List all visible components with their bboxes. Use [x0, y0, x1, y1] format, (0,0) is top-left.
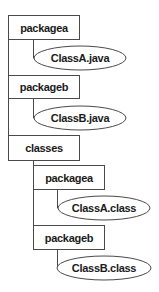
folder-node-classes[interactable]: classes: [9, 136, 80, 161]
file-node-classb-class[interactable]: ClassB.class: [57, 256, 151, 280]
folder-node-packagea[interactable]: packagea: [9, 16, 80, 40]
folder-node-classes-packagea[interactable]: packagea: [34, 166, 105, 190]
file-label: ClassB.class: [72, 262, 136, 274]
folder-label: packageb: [45, 232, 94, 244]
folder-label: classes: [25, 142, 63, 154]
folder-label: packagea: [45, 172, 94, 184]
folder-node-packageb[interactable]: packageb: [9, 76, 80, 99]
file-node-classa-java[interactable]: ClassA.java: [34, 46, 126, 70]
file-node-classa-class[interactable]: ClassA.class: [58, 196, 150, 220]
file-label: ClassA.java: [51, 52, 111, 64]
folder-label: packageb: [20, 81, 69, 93]
directory-tree-diagram: packagea ClassA.java packageb ClassB.jav…: [0, 0, 159, 292]
folder-node-classes-packageb[interactable]: packageb: [34, 226, 105, 250]
folder-label: packagea: [20, 22, 69, 34]
file-label: ClassA.class: [72, 202, 136, 214]
file-label: ClassB.java: [51, 112, 111, 124]
file-node-classb-java[interactable]: ClassB.java: [34, 106, 126, 130]
